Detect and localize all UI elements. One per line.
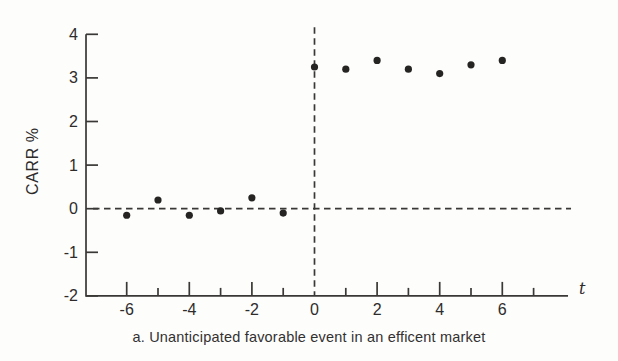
- y-tick-label: 4: [69, 26, 78, 43]
- data-point: [467, 61, 474, 68]
- data-point: [499, 57, 506, 64]
- x-tick-label: 0: [310, 301, 319, 318]
- data-point: [374, 57, 381, 64]
- data-point: [280, 209, 287, 216]
- data-point: [436, 70, 443, 77]
- x-tick-label: 2: [373, 301, 382, 318]
- data-point: [123, 212, 130, 219]
- scatter-chart: 43210-1-2-6-4-20246 CARR % t: [0, 0, 618, 326]
- axes: [86, 34, 568, 296]
- data-point: [311, 63, 318, 70]
- data-point: [217, 207, 224, 214]
- figure: 43210-1-2-6-4-20246 CARR % t a. Unantici…: [0, 0, 618, 361]
- x-tick-label: 6: [498, 301, 507, 318]
- x-tick-label: -2: [245, 301, 259, 318]
- y-tick-label: -1: [64, 244, 78, 261]
- data-point: [342, 66, 349, 73]
- x-tick-label: -6: [120, 301, 134, 318]
- data-point: [154, 196, 161, 203]
- x-axis-label: t: [579, 279, 586, 298]
- y-tick-label: 0: [69, 200, 78, 217]
- x-tick-label: 4: [435, 301, 444, 318]
- data-point: [248, 194, 255, 201]
- data-point: [186, 212, 193, 219]
- x-tick-label: -4: [182, 301, 196, 318]
- figure-caption: a. Unanticipated favorable event in an e…: [0, 329, 618, 345]
- y-axis-label: CARR %: [24, 127, 41, 195]
- data-point: [405, 66, 412, 73]
- y-tick-label: 3: [69, 69, 78, 86]
- y-tick-label: -2: [64, 287, 78, 304]
- y-tick-label: 1: [69, 157, 78, 174]
- y-tick-label: 2: [69, 113, 78, 130]
